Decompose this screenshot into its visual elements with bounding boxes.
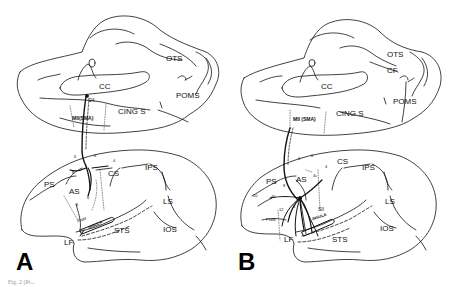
label-lf-a: LF bbox=[64, 239, 73, 247]
label-as-b: AS bbox=[296, 176, 307, 184]
label-ps-a: PS bbox=[44, 181, 55, 189]
label-area4-a: 4 bbox=[113, 159, 115, 163]
label-area12-b: 12 bbox=[279, 208, 283, 212]
label-ips-b: IPS bbox=[362, 164, 375, 172]
label-ots-b: OTS bbox=[387, 51, 403, 59]
label-area24-a: 24 bbox=[89, 98, 95, 103]
label-ots-a: OTS bbox=[166, 55, 182, 63]
label-area6d-a: 6 bbox=[76, 203, 78, 207]
panel-letter-b: B bbox=[238, 250, 255, 274]
label-area6b-b: 6 bbox=[298, 157, 300, 161]
label-prom-b: ProM bbox=[266, 218, 276, 222]
figure-caption: Fig. 2 (Pr... bbox=[8, 279, 35, 285]
label-area6a-a: 6 bbox=[74, 155, 76, 159]
label-area4c-b: 4c bbox=[313, 174, 317, 178]
panel-letter-a: A bbox=[16, 250, 33, 274]
label-sts-a: STS bbox=[114, 227, 130, 235]
label-area6c-a: 6 bbox=[87, 196, 89, 200]
label-cing-s-b: CING S bbox=[336, 110, 364, 118]
label-cc-b: CC bbox=[321, 83, 333, 91]
label-poms-a: POMS bbox=[176, 92, 200, 100]
label-ios-b: IOS bbox=[380, 225, 394, 233]
label-area10-b: 10 bbox=[253, 194, 257, 198]
label-mii-sma-a: MII(SMA) bbox=[72, 116, 93, 121]
label-area6c-b: 6 bbox=[311, 154, 313, 158]
label-ls-a: LS bbox=[163, 198, 173, 206]
panel-a-lateral-outline bbox=[21, 150, 216, 262]
label-area8-b: 8 bbox=[283, 184, 285, 188]
label-ps-b: PS bbox=[266, 178, 277, 186]
label-ls-b: LS bbox=[385, 198, 395, 206]
label-cs-b: CS bbox=[337, 158, 348, 166]
label-area4-b: 4 bbox=[325, 165, 327, 169]
label-area46-b: 46 bbox=[271, 195, 275, 199]
label-cs-a: CS bbox=[108, 170, 119, 178]
label-area6a-b: 6 bbox=[293, 205, 295, 209]
figure: OTS CC POMS CING S 24 MII(SMA) PS AS CS … bbox=[0, 0, 457, 287]
label-as-a: AS bbox=[69, 188, 80, 196]
label-area8-a: 8 bbox=[72, 171, 74, 175]
label-cc-a: CC bbox=[99, 83, 111, 91]
label-poms-b: POMS bbox=[393, 98, 417, 106]
label-mii-sma-b: MII (SMA) bbox=[293, 117, 316, 122]
label-ios-a: IOS bbox=[163, 226, 177, 234]
label-lf-b: LF bbox=[284, 236, 293, 244]
label-cing-s-a: CING S bbox=[118, 108, 146, 116]
label-sii-b: SII bbox=[318, 207, 324, 212]
label-ips-a: IPS bbox=[145, 164, 158, 172]
label-sts-b: STS bbox=[332, 236, 348, 244]
panel-b-lateral-outline bbox=[241, 150, 436, 262]
label-area6b-a: 6 bbox=[94, 154, 96, 158]
label-cf-b: CF bbox=[387, 67, 398, 75]
